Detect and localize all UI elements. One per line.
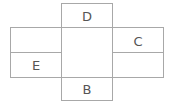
box-net-diagram: D E C B bbox=[0, 0, 170, 107]
label-c: C bbox=[133, 34, 142, 49]
label-b: B bbox=[83, 82, 92, 97]
face-right-lower bbox=[113, 53, 164, 78]
label-e: E bbox=[32, 58, 40, 73]
face-left-upper bbox=[11, 28, 62, 53]
face-center bbox=[62, 28, 113, 78]
label-d: D bbox=[82, 9, 92, 24]
